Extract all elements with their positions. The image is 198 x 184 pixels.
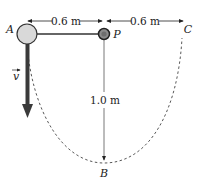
dimension-left-label: 0.6 m xyxy=(51,15,81,27)
vertical-dimension-label: 1.0 m xyxy=(90,94,120,106)
velocity-label: v xyxy=(13,70,20,83)
dimension-right-label: 0.6 m xyxy=(130,15,160,27)
velocity-arrow xyxy=(22,44,33,118)
point-b-label: B xyxy=(99,167,108,180)
ball-a xyxy=(17,24,37,44)
point-c-label: C xyxy=(184,23,193,36)
pivot-center xyxy=(101,31,106,36)
pendulum-diagram: 0.6 m 0.6 m 1.0 m v A P B C xyxy=(0,0,198,184)
point-p-label: P xyxy=(112,28,121,41)
point-a-label: A xyxy=(5,23,14,36)
